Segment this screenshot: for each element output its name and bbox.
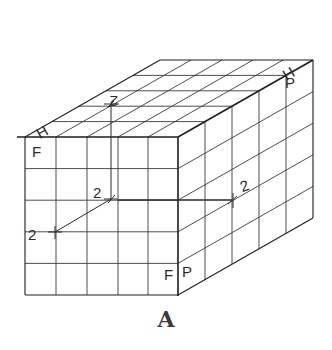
- dim-label-top: 2: [110, 93, 118, 110]
- top-face-grid: [52, 60, 286, 137]
- figure-caption: A: [0, 306, 332, 332]
- plane-label-h-front: H: [33, 122, 51, 142]
- plane-label-f-top: F: [32, 143, 41, 160]
- cube-diagram: 2 2 2 2 H H F F P P: [0, 0, 332, 350]
- dim-label-right: 2: [238, 176, 252, 195]
- plane-label-p-bottom: P: [182, 263, 192, 280]
- front-face-grid: [25, 137, 178, 295]
- dim-label-front-center: 2: [93, 184, 101, 201]
- cube-edges: [17, 60, 313, 296]
- plane-label-p-top: P: [285, 74, 295, 91]
- plane-label-f-bottom: F: [164, 266, 173, 283]
- dim-label-front-left: 2: [28, 226, 36, 243]
